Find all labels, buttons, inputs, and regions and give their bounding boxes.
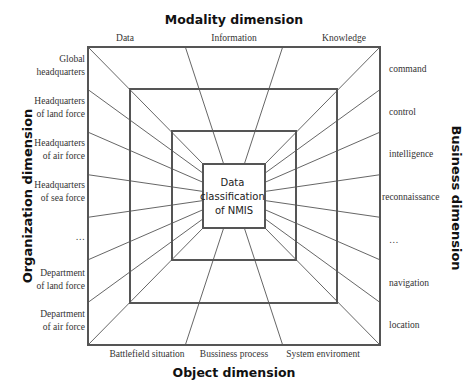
business-label: navigation [389,278,429,288]
organization-dimension-title: Organization dimension [20,109,35,284]
radial-line [88,175,203,192]
modality-label: Knowledge [322,33,366,43]
radial-line [88,228,203,345]
modality-label: Data [116,33,135,43]
modality-dimension-title: Modality dimension [165,12,303,27]
radial-line [88,47,203,164]
organization-label: Headquarters [34,96,85,106]
modality-label: Information [211,33,257,43]
center-label-line-2: classification [200,191,265,202]
radial-line [88,210,203,260]
organization-label: Headquarters [34,138,85,148]
object-label: Bussiness process [200,349,269,359]
center-label-line-1: Data [220,177,244,188]
business-label: … [389,235,399,245]
organization-label: Headquarters [34,180,85,190]
radial-line [265,132,380,182]
radial-line [185,228,223,345]
organization-label: of air force [43,151,85,161]
organization-label: of sea force [41,193,85,203]
radial-line [265,201,380,218]
organization-label: Global [59,54,85,64]
radial-line [244,228,282,345]
object-label: Battlefield situation [109,349,184,359]
business-label: intelligence [389,149,433,159]
data-classification-diagram: Modality dimension Object dimension Orga… [0,0,472,381]
radial-line [265,228,380,345]
organization-label: of air force [43,322,85,332]
business-label: control [389,107,416,117]
radial-line [265,210,380,260]
business-dimension-title: Business dimension [449,125,464,270]
organization-label: … [76,232,86,242]
organization-label: of land force [36,281,85,291]
business-label: command [389,64,427,74]
radial-line [88,132,203,182]
business-label: location [389,320,420,330]
business-label: reconnaissance [382,192,440,202]
organization-label: Department [40,309,85,319]
object-dimension-title: Object dimension [173,365,296,380]
radial-line [185,47,223,164]
radial-line [265,47,380,164]
organization-label: Department [40,268,85,278]
organization-label: of land force [36,109,85,119]
center-label-line-3: of NMIS [215,205,253,216]
object-label: System enviroment [286,349,360,359]
radial-line [88,201,203,218]
organization-label: headquarters [36,67,85,77]
radial-line [265,175,380,192]
radial-line [244,47,282,164]
